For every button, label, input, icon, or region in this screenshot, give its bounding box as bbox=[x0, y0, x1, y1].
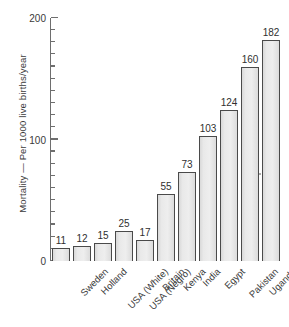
y-tick-label-0: 0 bbox=[40, 256, 46, 267]
bar-value-label: 182 bbox=[263, 27, 280, 38]
bar bbox=[157, 194, 175, 261]
bar bbox=[94, 243, 112, 261]
y-tick-label-200: 200 bbox=[29, 13, 46, 24]
x-axis-label: Egypt bbox=[222, 266, 247, 291]
bar bbox=[220, 110, 238, 261]
bar-value-label: 25 bbox=[118, 218, 129, 229]
bar-value-label: 17 bbox=[139, 227, 150, 238]
bar bbox=[199, 136, 217, 261]
y-tick-label-100: 100 bbox=[29, 134, 46, 145]
bar bbox=[178, 172, 196, 261]
bar-value-label: 11 bbox=[56, 235, 66, 246]
bar bbox=[136, 240, 154, 261]
bar bbox=[262, 40, 280, 261]
scan-speck bbox=[259, 173, 261, 175]
bar bbox=[241, 67, 259, 261]
bar-chart: Mortality — Per 1000 live births/year 01… bbox=[0, 0, 289, 327]
bar-value-label: 73 bbox=[181, 159, 192, 170]
y-axis-title: Mortality — Per 1000 live births/year bbox=[17, 24, 28, 244]
bar-value-label: 15 bbox=[97, 230, 108, 241]
plot-area: 0100200 11121525175573103124160182 bbox=[50, 18, 286, 261]
bar-value-label: 55 bbox=[160, 181, 171, 192]
bar-value-label: 12 bbox=[76, 233, 87, 244]
bar bbox=[73, 246, 91, 261]
bar bbox=[115, 231, 133, 261]
bar bbox=[52, 248, 70, 261]
bar-value-label: 103 bbox=[200, 123, 217, 134]
bar-value-label: 124 bbox=[221, 97, 238, 108]
bar-value-label: 160 bbox=[242, 54, 259, 65]
bar-series: 11121525175573103124160182 bbox=[52, 18, 286, 261]
